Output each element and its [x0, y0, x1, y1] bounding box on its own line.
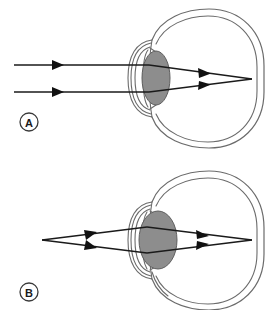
- panel-a-label: A: [20, 113, 38, 131]
- arrowhead-lower-incoming-b: [84, 240, 97, 250]
- lens-assembly-b: [139, 211, 177, 296]
- panel-b-label-text: B: [25, 287, 33, 299]
- panel-b-near-vision: B: [0, 155, 278, 310]
- arrowhead-lower-incoming-a: [52, 87, 64, 97]
- crystalline-lens-a: [142, 51, 170, 105]
- arrowhead-lower-refracted-a: [198, 81, 211, 90]
- panel-b-label: B: [20, 283, 38, 301]
- arrowhead-upper-incoming-a: [52, 60, 64, 70]
- panel-a-label-text: A: [25, 117, 33, 129]
- arrowhead-upper-refracted-a: [198, 68, 211, 78]
- crystalline-lens-b: [139, 211, 177, 269]
- arrowhead-upper-incoming-b: [84, 230, 97, 240]
- panel-a-distant-vision: A: [0, 0, 278, 155]
- eye-accommodation-figure: A: [0, 0, 278, 310]
- sclera-inner-a: [156, 16, 257, 142]
